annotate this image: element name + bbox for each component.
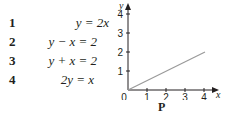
option-2: 2 y − x = 2 (9, 34, 109, 50)
x-axis-label: x (215, 89, 221, 100)
y-axis-label: y (118, 0, 124, 11)
x-tick-label: 2 (163, 92, 169, 100)
data-line (128, 52, 205, 90)
option-number: 4 (9, 72, 16, 88)
option-equation: y − x = 2 (48, 34, 97, 50)
x-tick-label: 4 (201, 92, 207, 100)
y-tick-label: 2 (117, 47, 123, 58)
option-number: 1 (9, 15, 16, 31)
option-4: 4 2y = x (9, 72, 109, 88)
y-tick-label: 3 (117, 28, 123, 39)
option-equation: y = 2x (76, 15, 109, 31)
x-tick-label: 0 (121, 92, 127, 100)
y-axis-arrow-icon (125, 3, 131, 10)
option-equation: y + x = 2 (48, 53, 97, 69)
x-tick-label: 1 (144, 92, 150, 100)
option-equation: 2y = x (61, 72, 94, 88)
option-3: 3 y + x = 2 (9, 53, 109, 69)
graph-title: P (158, 100, 165, 115)
y-tick-label: 1 (117, 66, 123, 77)
option-number: 2 (9, 34, 16, 50)
graph-p: 0 1 2 3 4 1 2 3 4 x y (113, 0, 226, 100)
option-number: 3 (9, 53, 16, 69)
option-1: 1 y = 2x (9, 15, 109, 31)
x-tick-label: 3 (182, 92, 188, 100)
